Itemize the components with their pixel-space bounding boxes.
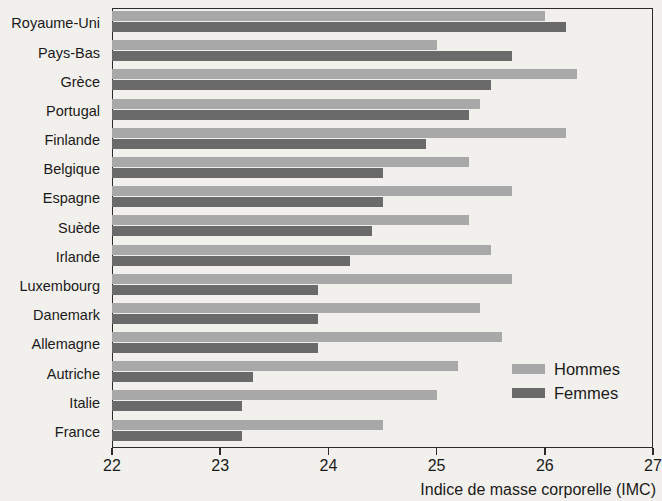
category-label: Belgique [0,155,106,184]
bar-hommes [112,420,383,430]
legend-item-hommes: Hommes [512,357,652,381]
bar-hommes [112,303,480,313]
x-tick [652,448,654,455]
category-label: Luxembourg [0,272,106,301]
bar-hommes [112,332,502,342]
legend-label-hommes: Hommes [554,361,620,378]
x-tick [111,448,113,455]
legend-label-femmes: Femmes [554,385,618,402]
bar-hommes [112,99,480,109]
bar-femmes [112,22,566,32]
x-tick-label: 24 [319,457,337,475]
bar-hommes [112,186,512,196]
bar-femmes [112,401,242,411]
bar-femmes [112,139,426,149]
category-label: Royaume-Uni [0,9,106,38]
bar-group [112,9,653,38]
category-axis-labels: Royaume-UniPays-BasGrècePortugalFinlande… [0,9,106,447]
bar-femmes [112,226,372,236]
x-tick-label: 22 [103,457,121,475]
x-tick [436,448,438,455]
bar-group [112,243,653,272]
bar-femmes [112,51,512,61]
bar-femmes [112,168,383,178]
category-label: Allemagne [0,330,106,359]
bar-group [112,418,653,447]
bar-hommes [112,69,577,79]
bar-hommes [112,274,512,284]
legend-swatch-hommes [512,364,545,374]
bmi-bar-chart: Royaume-UniPays-BasGrècePortugalFinlande… [0,0,662,501]
legend-swatch-femmes [512,388,545,398]
bar-group [112,301,653,330]
legend: Hommes Femmes [512,357,652,405]
bar-group [112,184,653,213]
bar-group [112,213,653,242]
x-tick [328,448,330,455]
category-label: France [0,418,106,447]
category-label: Italie [0,388,106,417]
bar-group [112,330,653,359]
bar-group [112,97,653,126]
bar-hommes [112,128,566,138]
bar-hommes [112,215,469,225]
legend-item-femmes: Femmes [512,381,652,405]
bar-femmes [112,431,242,441]
bar-hommes [112,390,437,400]
x-tick-label: 27 [644,457,662,475]
category-label: Pays-Bas [0,38,106,67]
x-tick-label: 23 [211,457,229,475]
category-label: Autriche [0,359,106,388]
bar-femmes [112,80,491,90]
category-label: Suède [0,213,106,242]
x-axis-title: Indice de masse corporelle (IMC) [420,481,656,499]
bar-group [112,126,653,155]
bar-group [112,155,653,184]
bar-group [112,38,653,67]
bar-hommes [112,361,458,371]
bar-hommes [112,11,545,21]
category-label: Danemark [0,301,106,330]
bar-femmes [112,256,350,266]
category-label: Finlande [0,126,106,155]
x-axis: Indice de masse corporelle (IMC) 2223242… [0,448,662,501]
bar-femmes [112,110,469,120]
bar-femmes [112,343,318,353]
x-tick-label: 26 [536,457,554,475]
bar-femmes [112,372,253,382]
bar-group [112,272,653,301]
bar-group [112,67,653,96]
bar-hommes [112,245,491,255]
category-label: Irlande [0,243,106,272]
bar-femmes [112,197,383,207]
category-label: Espagne [0,184,106,213]
category-label: Portugal [0,97,106,126]
category-label: Grèce [0,67,106,96]
x-tick-label: 25 [428,457,446,475]
bar-femmes [112,314,318,324]
x-tick [219,448,221,455]
bar-hommes [112,157,469,167]
bar-femmes [112,285,318,295]
bar-hommes [112,40,437,50]
x-tick [544,448,546,455]
